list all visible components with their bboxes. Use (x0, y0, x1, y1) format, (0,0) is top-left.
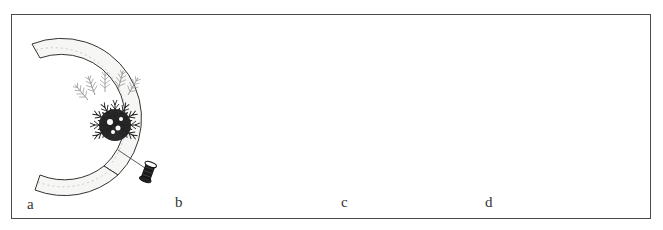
panel-label-a: a (27, 197, 34, 212)
wreath-illustration (0, 0, 663, 230)
panel-label-c: c (341, 195, 348, 210)
panel-label-d: d (485, 195, 493, 210)
panel-a (32, 38, 157, 195)
wire-spool-icon (139, 160, 157, 184)
panel-label-b: b (175, 195, 183, 210)
